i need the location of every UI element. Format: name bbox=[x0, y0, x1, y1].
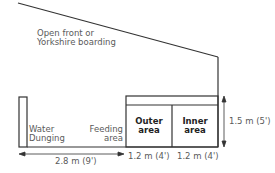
pen-diagram bbox=[0, 0, 275, 173]
inner-width-dimension: 1.2 m (4') bbox=[177, 152, 219, 161]
roof-note: Open front or Yorkshire boarding bbox=[37, 29, 116, 47]
arrow-right-icon bbox=[118, 152, 124, 156]
outer-area-label: Outer area bbox=[126, 117, 172, 135]
front-wall bbox=[19, 97, 27, 147]
outer-width-dimension: 1.2 m (4') bbox=[128, 152, 170, 161]
arrow-down-icon bbox=[222, 141, 226, 147]
feeding-area-label: Feeding area bbox=[86, 125, 123, 143]
inner-area-label: Inner area bbox=[172, 117, 218, 135]
water-dunging-label: Water Dunging bbox=[29, 125, 65, 143]
run-length-dimension: 2.8 m (9') bbox=[55, 157, 97, 166]
arrow-left-icon bbox=[19, 152, 25, 156]
arrow-up-icon bbox=[222, 96, 226, 102]
height-dimension: 1.5 m (5') bbox=[229, 117, 271, 126]
